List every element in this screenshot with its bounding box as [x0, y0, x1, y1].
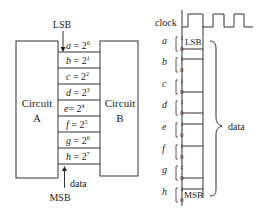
svg-text:1: 1 [180, 34, 184, 42]
svg-text:0: 0 [180, 131, 184, 139]
lsb-arrowhead-icon [61, 47, 66, 52]
svg-text:a: a [162, 35, 167, 46]
data-brace [210, 41, 222, 196]
svg-text:d: d [162, 99, 168, 110]
reg-f: f = 25 [66, 119, 87, 130]
data-label-left: data [70, 178, 87, 189]
svg-text:1: 1 [180, 98, 184, 106]
data-label-right: data [228, 121, 245, 132]
circuit-a-box [16, 41, 58, 178]
signal-rows: a 10 LSB b 10 c 10 d 10 e 10 [162, 34, 203, 204]
reg-d: d = 23 [66, 87, 90, 98]
svg-text:c: c [162, 78, 167, 89]
svg-text:f: f [162, 143, 166, 154]
lsb-label-right: LSB [185, 37, 202, 47]
svg-text:b: b [162, 56, 167, 67]
reg-b: b = 21 [66, 55, 90, 66]
reg-c: c = 22 [66, 71, 89, 82]
reg-a: a = 20 [66, 40, 90, 51]
circuit-b-label-2: B [116, 112, 123, 124]
register-cells: a = 20 b = 21 c = 22 d = 23 e= 24 f = 25… [64, 40, 90, 162]
circuit-a-label-1: Circuit [22, 97, 53, 109]
reg-h: h = 27 [66, 151, 90, 162]
svg-text:0: 0 [180, 153, 184, 161]
reg-g: g = 26 [66, 135, 90, 146]
circuit-a-label-2: A [33, 112, 41, 124]
msb-label-left: MSB [49, 192, 70, 203]
lsb-label-left: LSB [53, 19, 72, 30]
svg-text:0: 0 [180, 66, 184, 74]
svg-text:1: 1 [180, 163, 184, 171]
msb-label-right: MSB [184, 190, 203, 200]
svg-text:e: e [162, 121, 167, 132]
reg-e: e= 24 [64, 103, 85, 114]
signal-h: h 10 MSB [162, 185, 203, 204]
circuit-b-label-1: Circuit [105, 97, 136, 109]
clock-waveform [182, 14, 253, 27]
svg-text:1: 1 [180, 77, 184, 85]
clock-label: clock [155, 17, 177, 28]
svg-text:g: g [162, 164, 167, 175]
parallel-transfer-diagram: Circuit A Circuit B a = 20 b = 21 c = 22… [0, 0, 268, 214]
svg-text:h: h [162, 186, 167, 197]
